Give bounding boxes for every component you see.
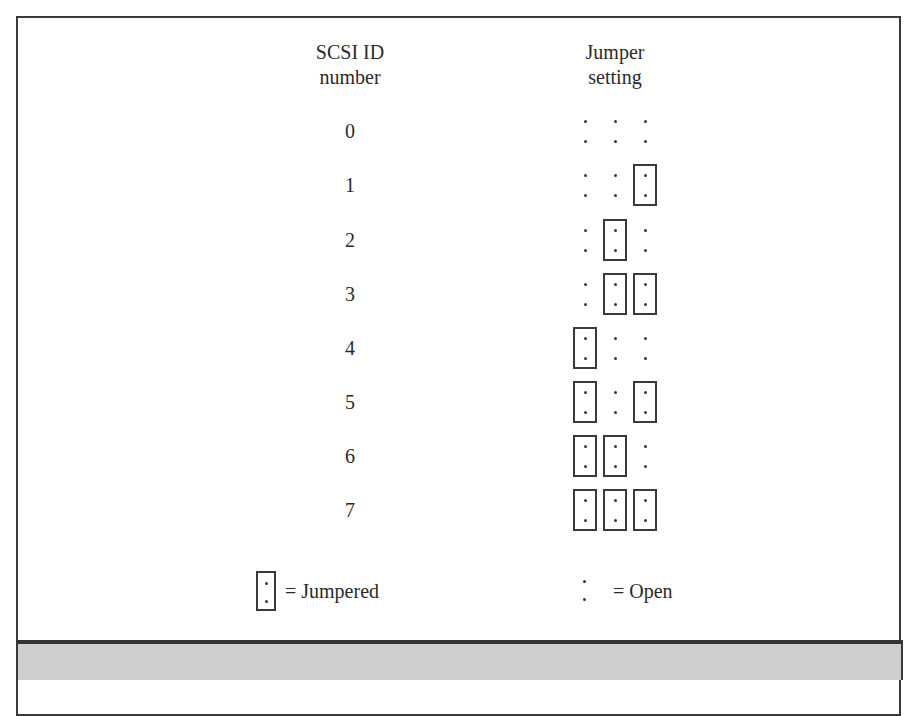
scsi-id-number: 4 <box>320 336 380 360</box>
scsi-id-number: 3 <box>320 282 380 306</box>
open-pin-icon <box>603 164 627 206</box>
legend-open-label: = Open <box>613 570 673 612</box>
open-pin-icon <box>574 571 594 611</box>
legend-open: = Open <box>574 568 673 610</box>
open-pin-icon <box>573 219 597 261</box>
jumpered-pin-icon <box>256 571 276 611</box>
open-pin-icon <box>633 327 657 369</box>
jumpered-pin-icon <box>633 273 657 315</box>
caption-bar <box>16 640 903 680</box>
jumper-header-line1: Jumper <box>535 40 695 65</box>
scsi-id-number: 1 <box>320 173 380 197</box>
open-pin-icon <box>633 110 657 152</box>
legend-jumpered-label: = Jumpered <box>285 570 379 612</box>
scsi-id-header-line2: number <box>270 65 430 90</box>
jumpered-pin-icon <box>573 435 597 477</box>
scsi-id-number: 6 <box>320 444 380 468</box>
jumpered-pin-icon <box>573 381 597 423</box>
legend-jumpered: = Jumpered <box>256 568 379 610</box>
scsi-id-number: 2 <box>320 228 380 252</box>
scsi-id-column-header: SCSI ID number <box>270 40 430 90</box>
scsi-id-header-line1: SCSI ID <box>270 40 430 65</box>
jumper-header-line2: setting <box>535 65 695 90</box>
open-pin-icon <box>633 435 657 477</box>
jumper-setting-column-header: Jumper setting <box>535 40 695 90</box>
open-pin-icon <box>603 327 627 369</box>
open-pin-icon <box>603 110 627 152</box>
open-pin-icon <box>573 110 597 152</box>
open-pin-icon <box>573 164 597 206</box>
jumpered-pin-icon <box>603 435 627 477</box>
jumpered-pin-icon <box>633 381 657 423</box>
jumpered-pin-icon <box>573 327 597 369</box>
jumpered-pin-icon <box>633 489 657 531</box>
jumpered-pin-icon <box>573 489 597 531</box>
jumpered-pin-icon <box>603 273 627 315</box>
open-pin-icon <box>603 381 627 423</box>
jumpered-pin-icon <box>633 164 657 206</box>
scsi-id-number: 7 <box>320 498 380 522</box>
scsi-id-number: 0 <box>320 119 380 143</box>
jumpered-pin-icon <box>603 219 627 261</box>
jumpered-pin-icon <box>603 489 627 531</box>
open-pin-icon <box>633 219 657 261</box>
figure-frame <box>16 16 901 716</box>
scsi-id-number: 5 <box>320 390 380 414</box>
open-pin-icon <box>573 273 597 315</box>
